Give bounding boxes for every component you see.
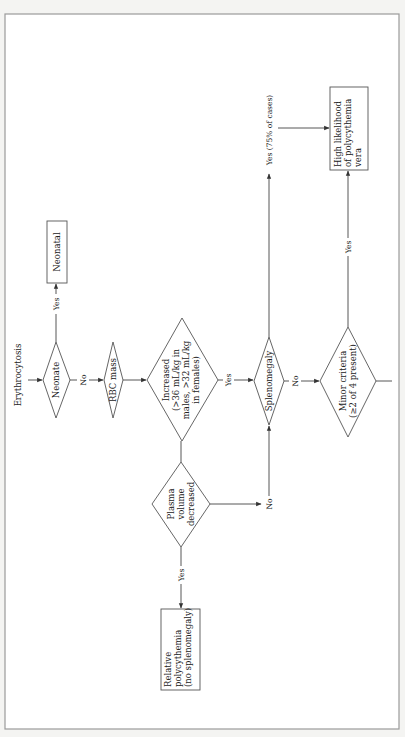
edge-label-spleno-yes: Yes (75% of cases) (265, 95, 274, 166)
plasma-label-1: Plasma (166, 489, 176, 520)
start-label: Erythrocytosis (13, 344, 23, 407)
plasma-label-3: decreased (186, 481, 196, 526)
rbc-mass-label: RBC mass (108, 358, 118, 402)
neonate-label: Neonate (51, 362, 61, 399)
edge-label-neonate-yes: Yes (52, 298, 61, 312)
increased-label-2: (>36 mL/kg in (171, 348, 181, 411)
edge-label-increased-yes: Yes (224, 374, 233, 388)
splenomegaly-label: Splenomegaly (264, 350, 274, 411)
flowchart: Erythrocytosis Neonate Neonatal Yes No R… (0, 0, 405, 737)
increased-label-3: males, >32 mL/kg (181, 340, 191, 419)
minor-criteria-label-2: (≥2 of 4 present) (348, 344, 358, 418)
relative-label-3: (no splenomegaly) (183, 608, 193, 687)
relative-label-1: Relative (163, 652, 173, 687)
high-likelihood-label-1: High likelihood (333, 100, 343, 167)
high-likelihood-label-3: vera (353, 148, 363, 168)
relative-label-2: polycythemia (173, 630, 183, 687)
edge-label-minor-yes: Yes (344, 241, 353, 255)
minor-criteria-label-1: Minor criteria (338, 351, 348, 412)
plasma-label-2: volume (176, 488, 186, 520)
edge-label-plasma-yes: Yes (177, 569, 186, 583)
high-likelihood-label-2: of polycythemia (343, 99, 353, 167)
increased-label-4: in females) (191, 356, 201, 404)
increased-label-1: Increased (161, 358, 171, 401)
edge-label-neonate-no: No (79, 374, 88, 386)
edge-label-plasma-no: No (265, 498, 274, 510)
neonatal-label: Neonatal (52, 232, 62, 272)
edge-label-spleno-no: No (291, 375, 300, 387)
